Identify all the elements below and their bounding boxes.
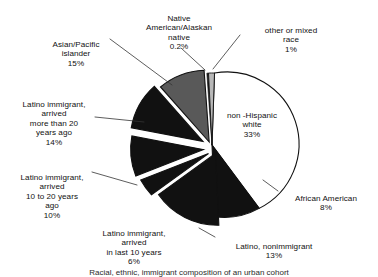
slice-label-latino-last-10-years-percent: 6% xyxy=(76,257,192,267)
slice-label-asian-pacific-islander-percent: 15% xyxy=(24,59,128,69)
slice-label-latino-more-than-20-years: Latino immigrant, arrived more than 20 y… xyxy=(0,90,108,157)
slice-label-other-mixed-race: other or mixed race 1% xyxy=(243,16,339,64)
slice-label-latino-nonimmigrant-name: Latino, nonimmigrant xyxy=(236,242,313,251)
slice-label-non-hispanic-white: non -Hispanic white 33% xyxy=(206,101,298,149)
slice-label-native-american-name: Native American/Alaskan native xyxy=(146,14,212,42)
slice-label-african-american-percent: 8% xyxy=(276,203,376,213)
slice-label-latino-last-10-years-name: Latino immigrant, arrived in last 10 yea… xyxy=(103,229,166,257)
slice-label-other-mixed-race-percent: 1% xyxy=(243,45,339,55)
slice-label-latino-more-than-20-years-percent: 14% xyxy=(0,138,108,148)
slice-label-latino-nonimmigrant: Latino, nonimmigrant 13% xyxy=(210,232,338,270)
slice-label-native-american-percent: 0.2% xyxy=(123,42,235,52)
slice-label-non-hispanic-white-percent: 33% xyxy=(206,130,298,140)
slice-label-other-mixed-race-name: other or mixed race xyxy=(265,26,317,45)
slice-label-non-hispanic-white-name: non -Hispanic white xyxy=(227,111,277,130)
slice-label-asian-pacific-islander: Asian/Pacific islander 15% xyxy=(24,30,128,78)
slice-label-african-american: African American 8% xyxy=(276,184,376,222)
figure-caption: Racial, ethnic, immigrant composition of… xyxy=(0,268,378,277)
slice-label-native-american: Native American/Alaskan native 0.2% xyxy=(123,4,235,62)
slice-label-asian-pacific-islander-name: Asian/Pacific islander xyxy=(53,40,100,59)
slice-label-african-american-name: African American xyxy=(295,194,357,203)
slice-label-latino-nonimmigrant-percent: 13% xyxy=(210,251,338,261)
slice-label-latino-more-than-20-years-name: Latino immigrant, arrived more than 20 y… xyxy=(23,100,86,138)
slice-label-latino-10-to-20-years-name: Latino immigrant, arrived 10 to 20 years… xyxy=(21,173,84,211)
pie-chart-figure: Native American/Alaskan native 0.2% othe… xyxy=(0,0,378,277)
